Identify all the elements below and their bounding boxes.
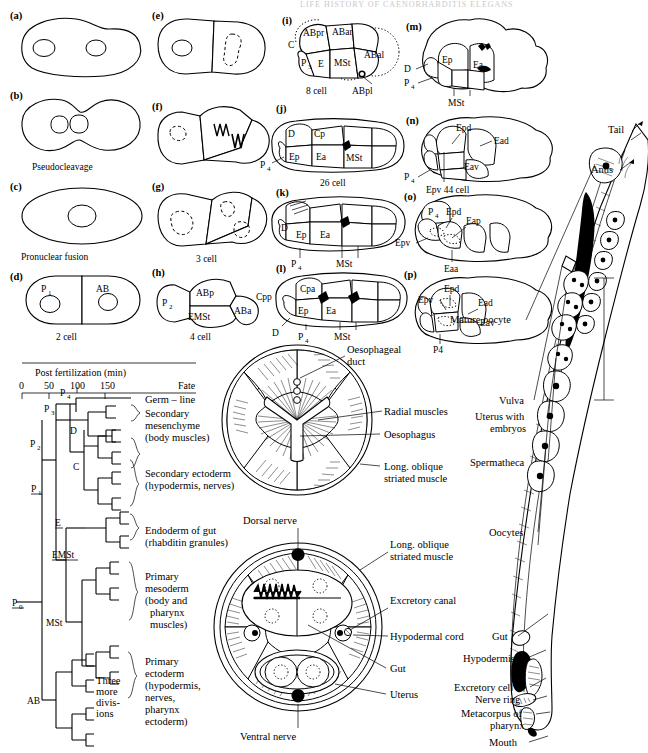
label-hypodermis: Hypodermis: [463, 653, 515, 664]
panel-n: (n) Epd Ead Eav P 4 Epv 44 cell: [404, 115, 552, 195]
label-long-oblique-0: Long. oblique: [384, 461, 443, 472]
node-label-C: C: [73, 462, 79, 472]
cell-label-MSt-k: MSt: [336, 259, 353, 269]
three-more-line-2: divis-: [96, 697, 120, 708]
label-spermatheca: Spermatheca: [470, 457, 525, 468]
label-excretory-cell: Excretory cell: [454, 682, 513, 693]
panel-b-caption: Pseudocleavage: [32, 162, 93, 172]
node-label-P1-sub: 1: [38, 489, 42, 497]
panel-a-letter: (a): [10, 10, 23, 22]
label-uterus-with-embryos-0: Uterus with: [475, 411, 525, 422]
cell-label-Ep-k: Ep: [296, 230, 307, 240]
node-label-P2: P: [30, 439, 35, 449]
fate-primary-ectoderm-1: ectoderm: [145, 668, 184, 679]
node-label-P2-sub: 2: [37, 444, 41, 452]
fate-primary-mesoderm-0: Primary: [145, 571, 180, 582]
panel-h-caption: 4 cell: [190, 332, 211, 342]
cell-label-P3: P: [301, 58, 306, 68]
figure-canvas: LIFE HISTORY OF CAENORHABDITIS ELEGANS (…: [0, 0, 648, 753]
label-body-long-oblique-1: striated muscle: [390, 551, 454, 562]
panel-f: (f): [152, 101, 269, 164]
panel-k: (k) D Ep Ea P 4 MSt: [272, 187, 405, 272]
tick-label-150: 150: [100, 380, 115, 391]
cell-label-ABp: ABp: [196, 288, 214, 298]
cell-label-Cpa: Cpa: [300, 284, 316, 294]
label-tail: Tail: [608, 124, 624, 135]
cell-label-D-m: D: [404, 64, 411, 74]
label-dorsal-nerve: Dorsal nerve: [243, 515, 297, 526]
fate-primary-ectoderm-2: (hypodermis,: [145, 680, 201, 692]
fate-primary-ectoderm-0: Primary: [145, 656, 180, 667]
fate-secondary-mesenchyme-2: (body muscles): [145, 432, 210, 444]
cell-label-P3-sub: 3: [308, 63, 312, 71]
cell-label-MSt-l: MSt: [334, 332, 351, 342]
label-nerve-ring: Nerve ring: [475, 694, 521, 705]
cell-label-P4-k: P: [291, 259, 296, 269]
node-label-P4-sub: 4: [67, 393, 71, 401]
fate-primary-mesoderm-2: (body and: [145, 595, 188, 607]
cell-label-Ea-l: Ea: [326, 306, 337, 316]
cell-label-Epd-p: Epd: [444, 284, 460, 294]
cell-label-P4-k-sub: 4: [298, 264, 302, 272]
node-label-D: D: [70, 426, 77, 436]
cell-label-Ea: Ea: [316, 152, 327, 162]
panel-i-letter: (i): [282, 15, 292, 27]
cell-label-Eap-o: Eap: [466, 216, 481, 226]
node-label-P3: P: [44, 404, 49, 414]
panel-c: (c) Pronuclear fusion: [10, 181, 142, 262]
label-metacorpus-of-pharynx-0: Metacorpus of: [461, 708, 522, 719]
fate-primary-ectoderm-5: ectoderm): [145, 716, 188, 728]
fate-endoderm-of-gut-1: (rhabditin granules): [145, 537, 229, 549]
cell-label-P2: P: [162, 298, 167, 308]
cell-label-P4-l-sub: 4: [305, 337, 309, 345]
panel-n-caption: Epv 44 cell: [426, 185, 470, 195]
cell-label-MSt-j: MSt: [346, 153, 363, 163]
cell-label-P1-sub: 1: [48, 289, 52, 297]
panel-l: (l) Cpa Cpp Ep Ea D P 4 MSt: [256, 263, 407, 345]
panel-h: (h) P 2 ABp EMSt ABa 4 cell: [152, 267, 258, 342]
node-label-P0-sub: 0: [19, 603, 23, 611]
panel-c-caption: Pronuclear fusion: [21, 252, 89, 262]
label-uterus-with-embryos-1: embryos: [490, 423, 526, 434]
label-excretory-canal: Excretory canal: [390, 595, 456, 606]
panel-g: (g) 3 cell: [152, 181, 267, 264]
tick-label-100: 100: [70, 380, 85, 391]
label-ventral-nerve: Ventral nerve: [240, 731, 297, 742]
panel-d-letter: (d): [10, 271, 23, 283]
three-more-line-0: Three: [96, 675, 121, 686]
cell-label-Eaa-o: Eaa: [444, 264, 459, 274]
oesophageal-duct-dots: [294, 379, 301, 404]
cell-label-Ep: Ep: [289, 152, 300, 162]
cell-label-E: E: [318, 59, 324, 69]
label-gut: Gut: [492, 631, 508, 642]
label-uterus: Uterus: [390, 689, 418, 700]
cell-label-Epv-p: Epv: [418, 295, 434, 305]
panel-j-caption: 26 cell: [320, 178, 346, 188]
fate-secondary-ectoderm-0: Secondary ectoderm: [145, 468, 231, 479]
label-oesophageal-duct-1: duct: [347, 356, 365, 367]
panel-b-letter: (b): [10, 90, 23, 102]
tick-label-0: 0: [19, 380, 24, 391]
cross-section-body: Dorsal nerve Long. oblique striated musc…: [214, 515, 465, 742]
cell-label-ABpr: ABpr: [303, 28, 325, 38]
node-label-AB: AB: [27, 696, 40, 706]
fate-secondary-ectoderm-1: (hypodermis, nerves): [145, 480, 235, 492]
lineage-axis-title: Post fertilization (min): [35, 367, 126, 379]
label-radial-muscles: Radial muscles: [384, 406, 448, 417]
panel-a: (a): [10, 10, 141, 77]
cell-label-D-l: D: [272, 328, 279, 338]
panel-d-caption: 2 cell: [56, 332, 77, 342]
panel-e-letter: (e): [152, 10, 164, 22]
cell-label-Epd-n: Epd: [456, 123, 472, 133]
fate-primary-mesoderm-1: mesoderm: [145, 583, 189, 594]
cell-label-ABal: ABal: [364, 50, 384, 60]
panel-d: (d) P 1 AB 2 cell: [10, 271, 140, 342]
node-label-P4: P: [60, 388, 65, 398]
panel-n-letter: (n): [406, 115, 419, 127]
cell-label-P4-l: P: [298, 332, 303, 342]
cell-label-P2-sub: 2: [169, 303, 173, 311]
cell-label-ABpl: ABpl: [352, 86, 373, 96]
fate-primary-mesoderm-3: pharynx: [150, 607, 185, 618]
lineage-chart: Post fertilization (min) Fate 0 50 100 1…: [12, 363, 235, 746]
label-gut: Gut: [390, 663, 406, 674]
